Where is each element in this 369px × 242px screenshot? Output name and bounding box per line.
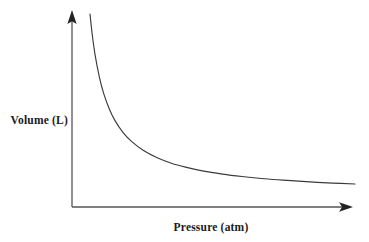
boyles-law-chart: Volume (L) Pressure (atm) [0,0,369,242]
y-axis-label: Volume (L) [11,114,68,127]
x-axis-label: Pressure (atm) [174,221,249,234]
chart-container: Volume (L) Pressure (atm) [0,0,369,242]
